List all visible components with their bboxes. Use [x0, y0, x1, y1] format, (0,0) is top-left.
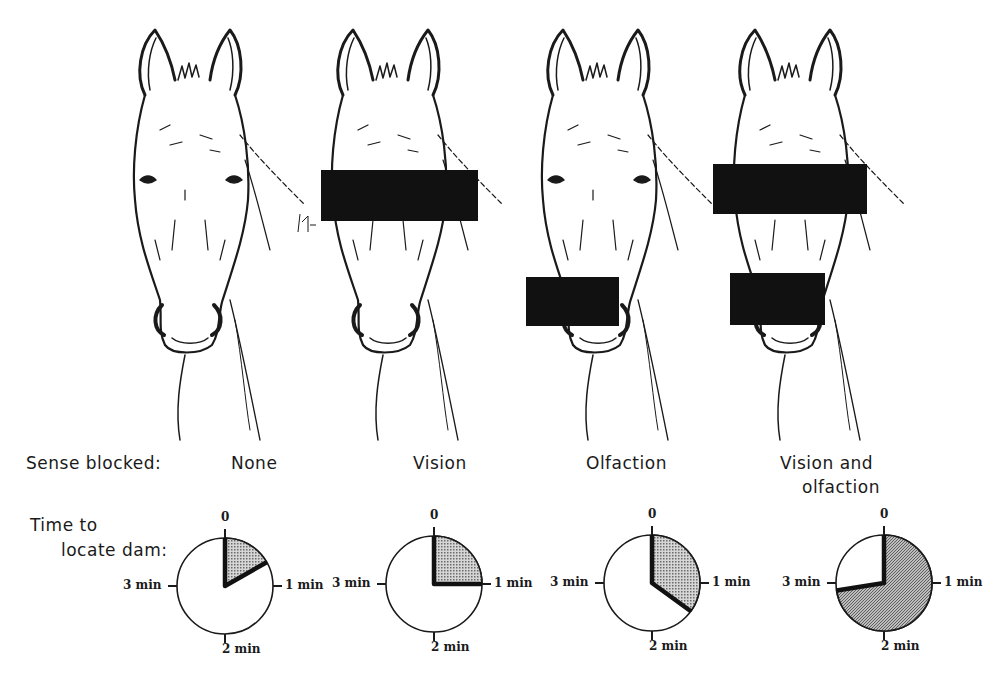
- sense-blocked-label: Sense blocked:: [26, 453, 161, 473]
- time-dial-olfaction: [595, 526, 709, 640]
- tick-label-2min: 2 min: [649, 639, 688, 653]
- time-label-line2: locate dam:: [61, 540, 167, 560]
- tick-label-0: 0: [221, 510, 229, 524]
- time-label-line1: Time to: [30, 515, 98, 535]
- sense-vision: Vision: [413, 453, 467, 473]
- tick-label-2min: 2 min: [881, 639, 920, 653]
- time-wedge: [434, 536, 482, 584]
- tick-label-3min: 3 min: [123, 578, 162, 592]
- tick-label-1min: 1 min: [494, 576, 533, 590]
- sense-olfaction: Olfaction: [586, 453, 667, 473]
- tick-label-0: 0: [880, 507, 888, 521]
- time-dials: [0, 0, 1005, 676]
- sense-vision-olfaction-line1: Vision and: [780, 453, 873, 473]
- sense-none: None: [231, 453, 277, 473]
- tick-label-1min: 1 min: [712, 575, 751, 589]
- tick-label-0: 0: [430, 508, 438, 522]
- sense-vision-olfaction-line2: olfaction: [802, 477, 880, 497]
- tick-label-2min: 2 min: [431, 640, 470, 654]
- time-dial-vision-olfaction: [827, 526, 941, 640]
- time-dial-vision: [377, 527, 491, 641]
- tick-label-3min: 3 min: [550, 575, 589, 589]
- tick-label-3min: 3 min: [332, 576, 371, 590]
- tick-label-3min: 3 min: [782, 575, 821, 589]
- tick-label-2min: 2 min: [222, 642, 261, 656]
- tick-label-1min: 1 min: [944, 575, 983, 589]
- tick-label-0: 0: [648, 507, 656, 521]
- tick-label-1min: 1 min: [285, 578, 324, 592]
- time-dial-none: [168, 529, 282, 643]
